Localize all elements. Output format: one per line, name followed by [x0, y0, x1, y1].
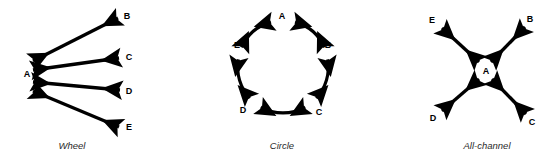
all-channel-node-c: C	[529, 117, 536, 127]
circle-node-b: B	[325, 40, 332, 50]
all-channel-node-a: A	[483, 66, 490, 76]
caption-circle: Circle	[270, 140, 294, 151]
circle-node-c: C	[316, 107, 323, 117]
circle-edge-e-a	[242, 22, 271, 47]
wheel-edge-a-e	[33, 91, 119, 127]
wheel-node-e: E	[126, 122, 132, 132]
caption-all-channel: All-channel	[464, 140, 511, 151]
circle-edge-b-c	[316, 59, 328, 98]
wheel-edge-a-d	[33, 82, 120, 90]
wheel-node-c: C	[126, 52, 133, 62]
wheel-node-b: B	[124, 11, 131, 21]
circle-node-e: E	[234, 40, 240, 50]
wheel-node-a: A	[24, 69, 31, 79]
all-channel-edge-a-e	[442, 28, 479, 62]
wheel-edges	[33, 18, 120, 127]
wheel-edge-a-c	[33, 58, 119, 70]
circle-edge-a-b	[295, 22, 324, 47]
circle-node-a: A	[279, 11, 286, 21]
figure-canvas: A B C D E A B C D E A B C D E Wheel Circ…	[0, 0, 559, 166]
all-channel-edge-a-c	[492, 79, 526, 114]
circle-edge-d-e	[238, 59, 250, 98]
circle-edge-c-d	[261, 107, 305, 113]
all-channel-node-e: E	[429, 15, 435, 25]
all-channel-node-b: B	[527, 14, 534, 24]
caption-wheel: Wheel	[59, 140, 86, 151]
circle-edges	[238, 22, 329, 113]
wheel-edge-a-b	[33, 18, 118, 61]
all-channel-edge-a-d	[442, 79, 479, 111]
wheel-node-d: D	[126, 86, 133, 96]
circle-node-d: D	[240, 105, 247, 115]
all-channel-edge-a-b	[491, 27, 525, 62]
all-channel-node-d: D	[430, 113, 437, 123]
